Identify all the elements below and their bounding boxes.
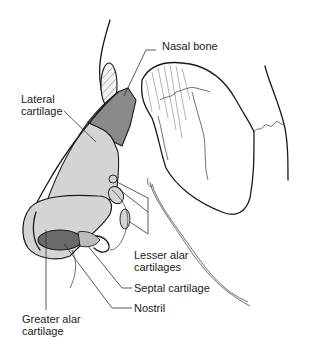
nose-anatomy-diagram xyxy=(0,0,318,350)
septal-cartilage xyxy=(78,231,100,246)
label-lesser-alar-line1: Lesser alar xyxy=(134,249,188,261)
label-greater-alar-line1: Greater alar xyxy=(22,313,81,325)
label-lesser-alar-line2: cartilages xyxy=(134,261,181,273)
leader-septal xyxy=(88,246,132,288)
lesser-alar-cartilage-3 xyxy=(120,209,130,229)
label-septal-cartilage: Septal cartilage xyxy=(134,282,210,294)
label-lateral-cartilage-line2: cartilage xyxy=(21,105,63,117)
maxilla-outline xyxy=(142,63,254,215)
lesser-alar-cartilage-1 xyxy=(109,175,117,183)
label-lateral-cartilage-line1: Lateral xyxy=(21,93,55,105)
label-nostril: Nostril xyxy=(134,302,165,314)
face-right-edge xyxy=(265,66,288,180)
label-greater-alar-line2: cartilage xyxy=(22,325,64,337)
label-nasal-bone: Nasal bone xyxy=(162,40,218,52)
